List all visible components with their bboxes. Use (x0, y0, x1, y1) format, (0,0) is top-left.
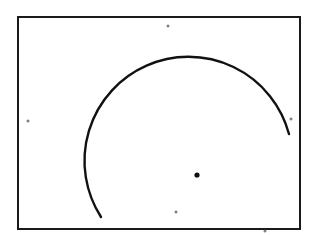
frame-rectangle (18, 17, 300, 229)
top-mark (167, 25, 170, 28)
right-mark (290, 118, 293, 121)
center-point (194, 172, 199, 177)
diagram-canvas (0, 0, 314, 235)
reference-marks (27, 25, 293, 233)
left-mark (27, 120, 30, 123)
bottom-mark (175, 211, 178, 214)
circular-arc (85, 57, 289, 217)
